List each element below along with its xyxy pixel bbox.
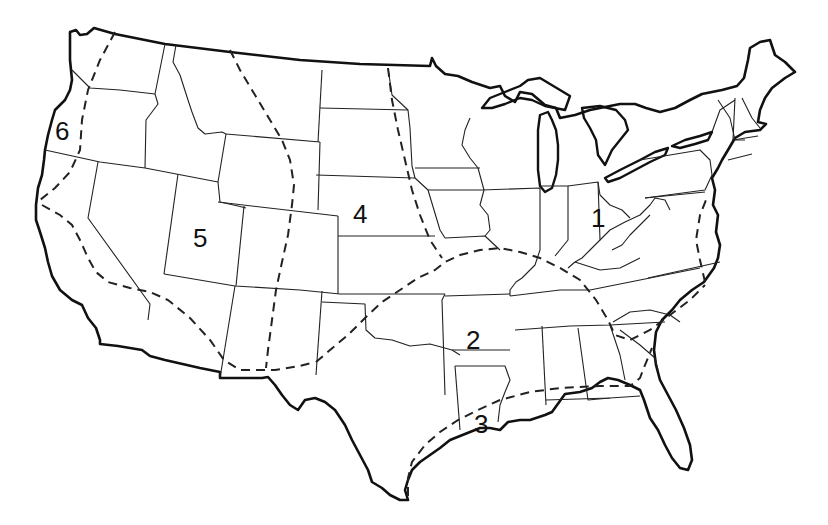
- region-label-1: 1: [591, 205, 605, 231]
- us-coastline-border: [36, 28, 795, 500]
- region-label-3: 3: [474, 411, 488, 437]
- region-label-4: 4: [353, 201, 367, 227]
- region-label-2: 2: [466, 327, 480, 353]
- us-regions-map: [0, 0, 828, 525]
- region-label-5: 5: [193, 225, 207, 251]
- region-label-6: 6: [55, 118, 69, 144]
